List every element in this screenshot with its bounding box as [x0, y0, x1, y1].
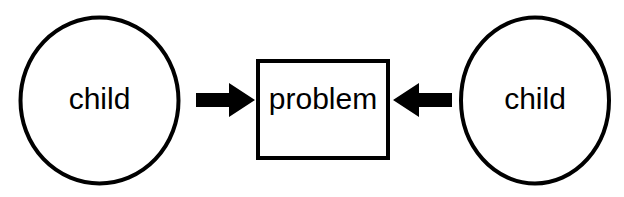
diagram-svg: child problem child: [0, 0, 624, 197]
node-problem[interactable]: problem: [258, 61, 388, 158]
node-child-right[interactable]: child: [461, 18, 609, 184]
problem-label: problem: [269, 82, 377, 115]
child-left-label: child: [69, 82, 131, 115]
diagram-canvas: child problem child: [0, 0, 624, 197]
node-child-left[interactable]: child: [21, 18, 179, 184]
arrow-right-to-problem-icon: [393, 83, 452, 117]
arrow-left-to-problem-icon: [196, 83, 255, 117]
child-right-label: child: [504, 82, 566, 115]
